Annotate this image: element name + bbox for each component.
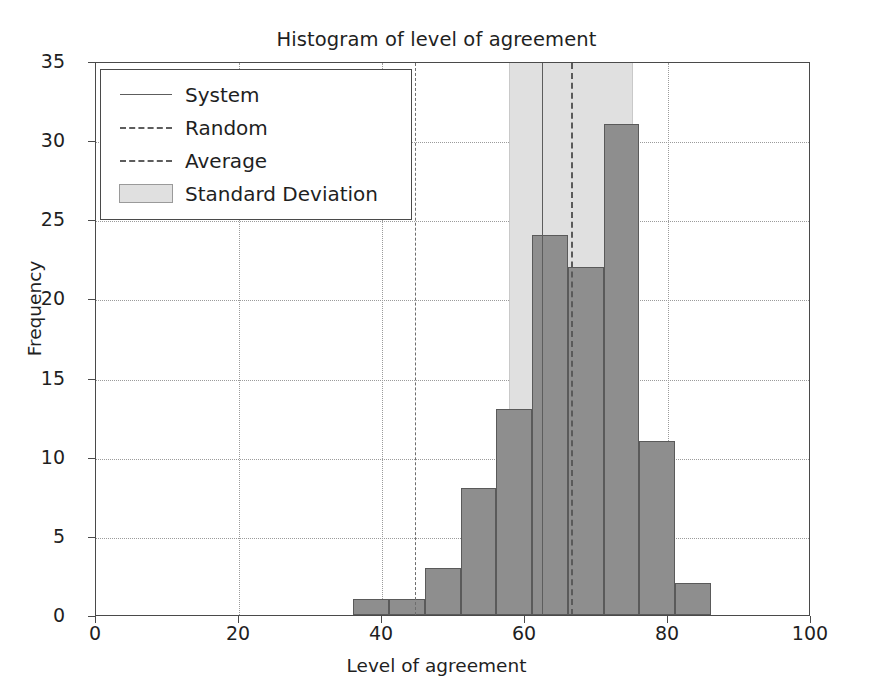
y-tick-mark	[88, 62, 95, 63]
y-tick-label: 0	[5, 604, 65, 626]
legend-item: Standard Deviation	[107, 177, 405, 210]
y-tick-mark	[88, 458, 95, 459]
x-tick-label: 80	[632, 622, 702, 644]
legend-label: System	[185, 83, 260, 107]
histogram-bar	[604, 124, 640, 615]
histogram-bar	[568, 267, 604, 615]
y-tick-label: 20	[5, 287, 65, 309]
reference-line-random	[415, 63, 416, 615]
gridline-horizontal	[96, 300, 809, 301]
histogram-bar	[389, 599, 425, 615]
histogram-bar	[639, 441, 675, 615]
reference-line-system	[542, 63, 543, 615]
legend-key-solid-line	[107, 78, 185, 111]
gridline-horizontal	[96, 459, 809, 460]
y-tick-mark	[88, 299, 95, 300]
y-tick-mark	[88, 379, 95, 380]
reference-line-average	[571, 63, 573, 615]
y-tick-label: 25	[5, 208, 65, 230]
x-tick-mark	[238, 616, 239, 623]
histogram-bar	[461, 488, 497, 615]
histogram-bar	[425, 568, 461, 615]
x-tick-label: 0	[60, 622, 130, 644]
legend-label: Standard Deviation	[185, 182, 378, 206]
legend-line-icon	[120, 127, 172, 129]
y-tick-mark	[88, 220, 95, 221]
x-tick-mark	[95, 616, 96, 623]
y-tick-mark	[88, 537, 95, 538]
legend-key-filled-patch	[107, 177, 185, 210]
gridline-horizontal	[96, 221, 809, 222]
x-tick-mark	[381, 616, 382, 623]
x-tick-mark	[667, 616, 668, 623]
gridline-horizontal	[96, 538, 809, 539]
histogram-bar	[353, 599, 389, 615]
legend-swatch-icon	[119, 184, 173, 203]
y-tick-label: 10	[5, 446, 65, 468]
histogram-bar	[675, 583, 711, 615]
legend-key-dashdot-line	[107, 111, 185, 144]
legend: SystemRandomAverageStandard Deviation	[100, 69, 412, 220]
legend-item: Average	[107, 144, 405, 177]
x-tick-mark	[524, 616, 525, 623]
x-tick-label: 20	[203, 622, 273, 644]
legend-label: Average	[185, 149, 267, 173]
x-tick-label: 60	[489, 622, 559, 644]
legend-item: System	[107, 78, 405, 111]
legend-item: Random	[107, 111, 405, 144]
y-tick-label: 15	[5, 367, 65, 389]
y-tick-label: 5	[5, 525, 65, 547]
y-tick-label: 30	[5, 129, 65, 151]
y-tick-mark	[88, 616, 95, 617]
x-axis-label: Level of agreement	[0, 655, 873, 676]
page-title: Histogram of level of agreement	[0, 28, 873, 51]
legend-line-icon	[120, 94, 172, 95]
y-tick-mark	[88, 141, 95, 142]
figure-canvas: Histogram of level of agreement Frequenc…	[0, 0, 873, 700]
legend-key-dashed-line	[107, 144, 185, 177]
legend-line-icon	[120, 160, 172, 162]
x-tick-label: 100	[775, 622, 845, 644]
gridline-horizontal	[96, 380, 809, 381]
y-tick-label: 35	[5, 50, 65, 72]
histogram-bar	[496, 409, 532, 615]
x-tick-mark	[810, 616, 811, 623]
legend-label: Random	[185, 116, 268, 140]
x-tick-label: 40	[346, 622, 416, 644]
histogram-bar	[532, 235, 568, 615]
